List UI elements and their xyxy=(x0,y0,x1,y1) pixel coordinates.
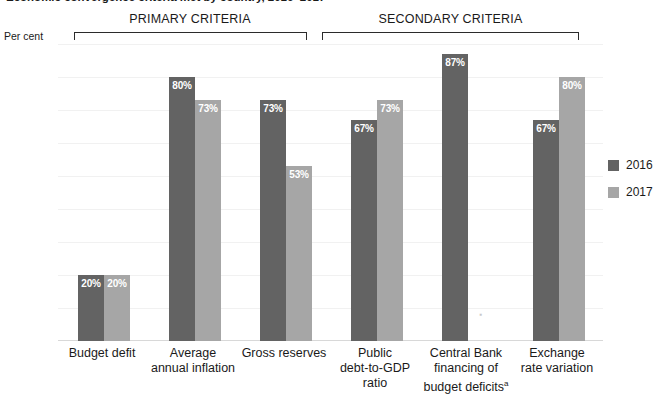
bar-group-central-bank-financing: 87% ▪ xyxy=(442,44,494,341)
legend-label-2017: 2017 xyxy=(626,185,653,199)
legend-swatch-2016 xyxy=(608,160,619,171)
bar-value-label: 73% xyxy=(377,103,403,114)
x-label-line3: budget deficits xyxy=(423,380,504,394)
legend-item-2017[interactable]: 2017 xyxy=(608,185,653,199)
legend-swatch-2017 xyxy=(608,187,619,198)
chart-root: Economic convergence criteria met by cou… xyxy=(0,0,663,398)
bar-value-label: 80% xyxy=(559,80,585,91)
bar-value-label: 73% xyxy=(195,103,221,114)
plot-area: 90 80 70 60 50 40 30 20 10 0 20% 20% 80%… xyxy=(58,44,603,341)
bar-group-gross-reserves: 73% 53% xyxy=(260,44,312,341)
x-label-line1: Exchange xyxy=(499,346,615,361)
bracket-label-secondary: SECONDARY CRITERIA xyxy=(322,12,579,26)
bar-value-label: 80% xyxy=(169,80,195,91)
bar-2017-average-annual-inflation[interactable]: 73% xyxy=(195,100,221,341)
x-axis-baseline xyxy=(58,340,603,341)
chart-title: Economic convergence criteria met by cou… xyxy=(6,0,566,5)
bar-2016-central-bank-financing[interactable]: 87% xyxy=(442,54,468,341)
bar-2017-gross-reserves[interactable]: 53% xyxy=(286,166,312,341)
bar-2017-zero-marker: ▪ xyxy=(468,310,494,319)
bar-group-public-debt-to-gdp-ratio: 67% 73% xyxy=(351,44,403,341)
x-label-line3-wrap: budget deficitsa xyxy=(408,376,524,395)
bar-value-label: 87% xyxy=(442,57,468,68)
bar-value-label: 67% xyxy=(351,123,377,134)
bar-group-average-annual-inflation: 80% 73% xyxy=(169,44,221,341)
x-label-line2: annual inflation xyxy=(135,361,251,376)
y-axis-unit-label: Per cent xyxy=(4,30,43,42)
bar-group-budget-defit: 20% 20% xyxy=(78,44,130,341)
bar-2017-exchange-rate-variation[interactable]: 80% xyxy=(559,77,585,341)
bar-group-exchange-rate-variation: 67% 80% xyxy=(533,44,585,341)
bar-2017-public-debt-to-gdp-ratio[interactable]: 73% xyxy=(377,100,403,341)
bracket-label-primary: PRIMARY CRITERIA xyxy=(74,12,306,26)
legend-label-2016: 2016 xyxy=(626,158,653,172)
x-label-line2: rate variation xyxy=(499,361,615,376)
bar-2016-average-annual-inflation[interactable]: 80% xyxy=(169,77,195,341)
footnote-marker: a xyxy=(504,379,508,388)
legend-item-2016[interactable]: 2016 xyxy=(608,158,653,172)
bar-value-label: 67% xyxy=(533,123,559,134)
chart-legend: 2016 2017 xyxy=(608,158,653,212)
bar-value-label: 20% xyxy=(104,278,130,289)
bar-value-label: 73% xyxy=(260,103,286,114)
bar-value-label: 20% xyxy=(78,278,104,289)
bracket-secondary xyxy=(322,32,579,40)
bracket-primary xyxy=(74,32,307,40)
bar-2016-public-debt-to-gdp-ratio[interactable]: 67% xyxy=(351,120,377,341)
bar-2016-exchange-rate-variation[interactable]: 67% xyxy=(533,120,559,341)
bar-2016-budget-defit[interactable]: 20% xyxy=(78,275,104,341)
bar-value-label: 53% xyxy=(286,169,312,180)
bar-2016-gross-reserves[interactable]: 73% xyxy=(260,100,286,341)
bar-2017-budget-defit[interactable]: 20% xyxy=(104,275,130,341)
x-label-exchange-rate-variation: Exchange rate variation xyxy=(499,346,615,376)
